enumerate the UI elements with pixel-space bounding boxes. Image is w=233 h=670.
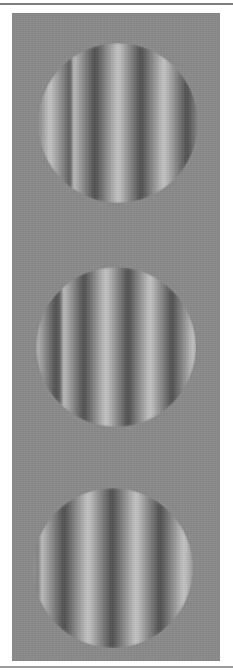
grating-1	[38, 43, 198, 203]
top-rule	[0, 3, 233, 5]
grating-3	[33, 488, 193, 648]
bottom-rule	[0, 666, 233, 668]
grating-2	[36, 267, 196, 427]
stimulus-panel	[12, 13, 220, 661]
